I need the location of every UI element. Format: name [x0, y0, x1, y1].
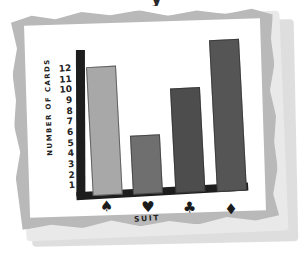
- x-tick-spade: ♠: [93, 199, 119, 215]
- x-tick-diamond: ♦: [218, 202, 244, 218]
- y-tick-label: 12: [51, 64, 72, 75]
- bar-diamond: [209, 39, 247, 193]
- x-tick-club: ♣: [176, 201, 202, 217]
- bar-heart: [130, 135, 163, 195]
- y-tick-label: 9: [52, 96, 73, 107]
- y-axis-ticks: 121110987654321: [51, 46, 76, 199]
- x-axis-title: SUIT: [134, 213, 160, 224]
- y-tick-label: 3: [54, 160, 75, 171]
- bar-club: [170, 87, 205, 194]
- title-fragment: y: [137, 0, 177, 6]
- bar-spade: [86, 66, 123, 196]
- y-tick-label: 1: [55, 181, 76, 192]
- screenshot-root: y NUMBER OF CARDS 121110987654321 ♠♥♣♦ S…: [0, 0, 301, 256]
- chart-sheet: NUMBER OF CARDS 121110987654321 ♠♥♣♦ SUI…: [11, 6, 280, 230]
- bars-group: [80, 33, 251, 196]
- sheet-inner: NUMBER OF CARDS 121110987654321 ♠♥♣♦ SUI…: [24, 18, 266, 217]
- bar-chart: NUMBER OF CARDS 121110987654321 ♠♥♣♦ SUI…: [24, 18, 266, 217]
- x-axis-ticks: ♠♥♣♦: [86, 194, 263, 226]
- y-tick-label: 6: [53, 128, 74, 139]
